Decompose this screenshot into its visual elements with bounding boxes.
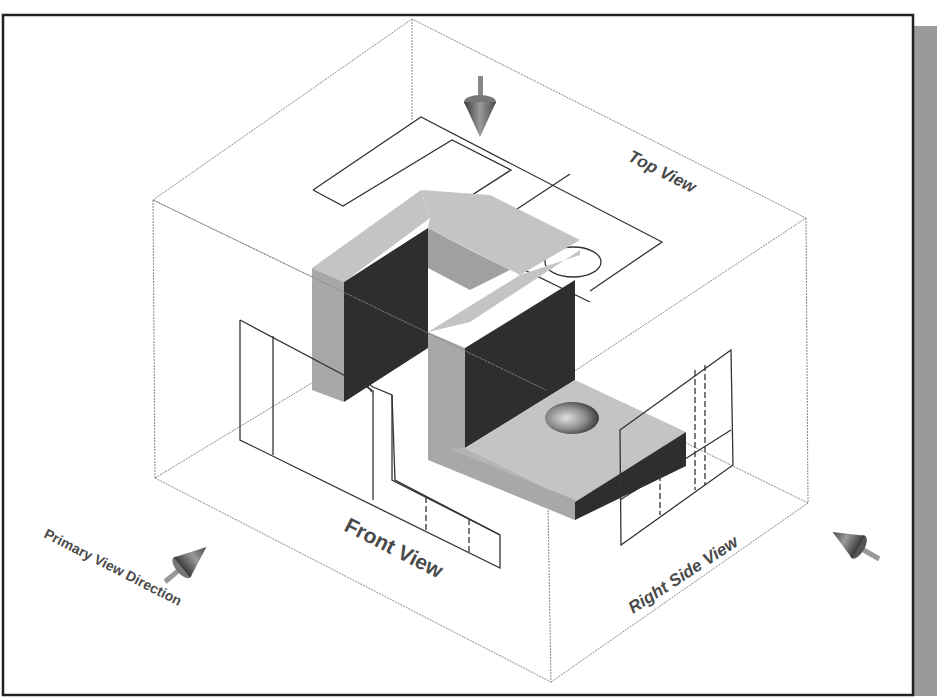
diagram-canvas: Top View Front View Right Side View Prim… xyxy=(0,0,937,699)
